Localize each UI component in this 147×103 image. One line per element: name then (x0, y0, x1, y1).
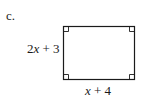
right-angle-marker-top-right (130, 27, 135, 32)
right-angle-marker-bottom-right (130, 75, 135, 80)
left-side-length-label: 2x + 3 (27, 42, 60, 55)
rectangle-diagram (0, 0, 147, 103)
right-angle-marker-top-left (64, 27, 69, 32)
bottom-side-length-label: x + 4 (85, 84, 111, 97)
right-angle-marker-bottom-left (64, 75, 69, 80)
rectangle-shape (64, 27, 135, 80)
